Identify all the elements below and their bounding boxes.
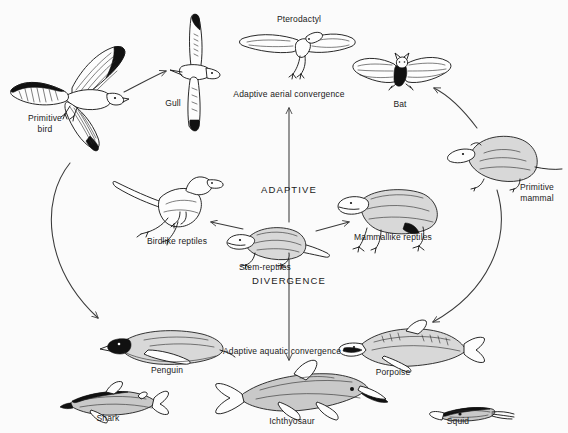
label-adaptive-aquatic-convergence: Adaptive aquatic convergence bbox=[223, 346, 341, 357]
gull-illustration bbox=[170, 14, 220, 131]
label-squid: Squid bbox=[447, 416, 470, 427]
arrow-stem-to-birdlike bbox=[211, 222, 243, 229]
diagram-canvas bbox=[0, 0, 568, 433]
label-mammallike-reptiles: Mammallike reptiles bbox=[354, 232, 432, 243]
arrow-primitive-mammal-to-bat bbox=[434, 88, 477, 128]
birdlike-reptiles-illustration bbox=[113, 177, 223, 245]
evolution-diagram: Primitive bird Gull Pterodactyl Bat Prim… bbox=[0, 0, 568, 433]
label-ichthyosaur: Ichthyosaur bbox=[269, 416, 315, 427]
arrow-stem-to-mammallike bbox=[316, 222, 349, 231]
pterodactyl-illustration bbox=[240, 32, 356, 79]
label-gull: Gull bbox=[165, 98, 181, 109]
label-adaptive: ADAPTIVE bbox=[261, 185, 317, 196]
ichthyosaur-illustration bbox=[216, 360, 388, 420]
label-shark: Shark bbox=[97, 413, 120, 424]
label-stem-reptiles: Stem-reptiles bbox=[239, 262, 291, 273]
label-primitive-bird: Primitive bird bbox=[28, 113, 62, 134]
label-penguin: Penguin bbox=[151, 365, 183, 376]
label-porpoise: Porpoise bbox=[376, 367, 411, 378]
penguin-illustration bbox=[100, 331, 235, 365]
porpoise-illustration bbox=[339, 320, 485, 372]
label-adaptive-aerial-convergence: Adaptive aerial convergence bbox=[233, 89, 344, 100]
label-birdlike-reptiles: Birdlike reptiles bbox=[147, 236, 207, 247]
squid-illustration bbox=[430, 408, 514, 421]
arrow-primitive-mammal-to-porpoise bbox=[433, 190, 501, 322]
arrow-primitive-bird-to-penguin bbox=[51, 163, 98, 318]
label-pterodactyl: Pterodactyl bbox=[277, 14, 321, 25]
arrow-primitive-bird-to-gull bbox=[124, 71, 166, 92]
bat-illustration bbox=[353, 53, 451, 90]
label-divergence: DIVERGENCE bbox=[252, 276, 326, 287]
label-bat: Bat bbox=[393, 99, 406, 110]
label-primitive-mammal: Primitive mammal bbox=[520, 182, 554, 203]
primitive-bird-illustration bbox=[11, 46, 129, 150]
mammallike-reptiles-illustration bbox=[338, 190, 437, 253]
